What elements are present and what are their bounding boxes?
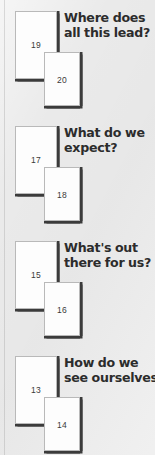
question-heading: What's out there for us? xyxy=(64,240,155,270)
question-heading-line-2: see ourselves? xyxy=(64,370,155,385)
question-heading-line-1: What's out xyxy=(64,240,155,255)
question-heading: What do we expect? xyxy=(64,125,155,155)
card-secondary-number: 14 xyxy=(45,420,79,430)
question-heading: Where does all this lead? xyxy=(64,10,155,40)
card-secondary[interactable]: 20 xyxy=(44,52,80,106)
card-secondary[interactable]: 16 xyxy=(44,282,80,336)
card-primary-number: 19 xyxy=(16,40,56,50)
card-secondary-number: 16 xyxy=(45,305,79,315)
question-heading-line-2: there for us? xyxy=(64,255,155,270)
question-group: 15 16 What's out there for us? xyxy=(0,230,155,342)
question-group: 13 14 How do we see ourselves? xyxy=(0,345,155,455)
question-heading-line-1: How do we xyxy=(64,355,155,370)
question-heading-line-1: What do we xyxy=(64,125,155,140)
card-secondary[interactable]: 18 xyxy=(44,167,80,221)
card-secondary[interactable]: 14 xyxy=(44,397,80,451)
question-heading: How do we see ourselves? xyxy=(64,355,155,385)
card-primary-number: 15 xyxy=(16,270,56,280)
card-primary-number: 13 xyxy=(16,385,56,395)
question-group: 17 18 What do we expect? xyxy=(0,115,155,227)
question-group: 19 20 Where does all this lead? xyxy=(0,0,155,112)
question-heading-line-2: all this lead? xyxy=(64,25,155,40)
card-secondary-number: 18 xyxy=(45,190,79,200)
card-primary-number: 17 xyxy=(16,155,56,165)
card-secondary-number: 20 xyxy=(45,75,79,85)
page-canvas: 19 20 Where does all this lead? 17 18 Wh… xyxy=(0,0,155,455)
question-heading-line-2: expect? xyxy=(64,140,155,155)
question-heading-line-1: Where does xyxy=(64,10,155,25)
